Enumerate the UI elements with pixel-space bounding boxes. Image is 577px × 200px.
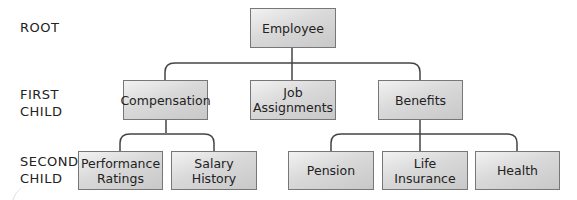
node-pension: Pension <box>288 151 374 190</box>
node-salary-history: Salary History <box>171 151 257 190</box>
node-life-insurance: Life Insurance <box>382 151 468 190</box>
node-health: Health <box>475 151 560 190</box>
node-compensation: Compensation <box>123 80 208 120</box>
node-job-assignments: Job Assignments <box>250 80 336 120</box>
node-performance-ratings: Performance Ratings <box>78 151 163 190</box>
node-benefits: Benefits <box>378 80 463 120</box>
node-employee: Employee <box>250 8 336 48</box>
